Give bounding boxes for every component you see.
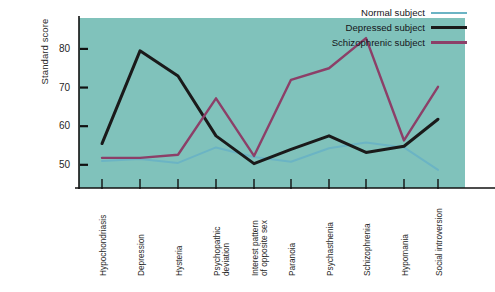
mmpi-profile-chart: Standard score 50607080 HypochondriasisD… <box>0 0 495 292</box>
x-tick-label-2: Hysteria <box>175 246 184 276</box>
x-tick-label-9: Social introversion <box>435 208 444 276</box>
y-tick-label-50: 50 <box>36 159 70 170</box>
legend-item-label: Depressed subject <box>346 22 425 33</box>
legend-item-label: Schizophrenic subject <box>332 37 425 48</box>
legend-swatch-depressed-subject <box>431 26 467 29</box>
x-tick-label-0: Hypochondriasis <box>99 215 108 276</box>
x-tick-label-6: Psychasthenia <box>326 222 335 276</box>
y-axis-title: Standard score <box>39 0 50 112</box>
y-tick-label-70: 70 <box>36 82 70 93</box>
legend-swatch-schizophrenic-subject <box>431 41 467 43</box>
legend-item-normal-subject[interactable]: Normal subject <box>361 6 467 19</box>
x-tick-label-1: Depression <box>137 234 146 276</box>
x-tick-label-5: Paranoia <box>288 243 297 276</box>
x-tick-label-7: Schizophrenia <box>363 223 372 276</box>
y-tick-label-80: 80 <box>36 43 70 54</box>
chart-legend: Normal subjectDepressed subjectSchizophr… <box>332 6 467 49</box>
series-line-depressed-subject <box>102 51 438 164</box>
legend-item-label: Normal subject <box>361 7 425 18</box>
x-tick-label-8: Hypomania <box>401 234 410 276</box>
legend-item-schizophrenic-subject[interactable]: Schizophrenic subject <box>332 36 467 49</box>
x-tick-label-3: Psychopathicdeviation <box>213 227 232 276</box>
x-tick-label-4: Interest patternof opposite sex <box>251 220 270 276</box>
y-tick-label-60: 60 <box>36 120 70 131</box>
legend-item-depressed-subject[interactable]: Depressed subject <box>346 21 467 34</box>
series-line-schizophrenic-subject <box>102 38 438 158</box>
legend-swatch-normal-subject <box>431 12 467 14</box>
